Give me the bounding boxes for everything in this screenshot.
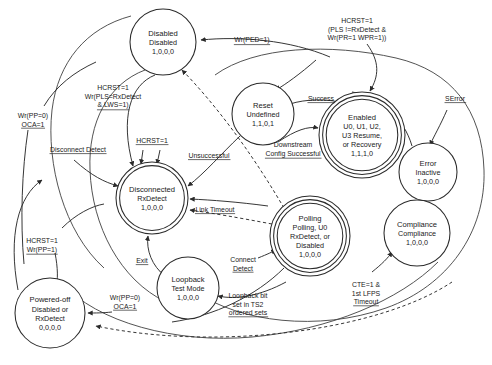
state-reset-line-1: Undefined: [247, 110, 280, 119]
edge-hcrst-pr-wpr-down: [367, 44, 377, 91]
edge-label-wr-ped: Wr(PED=1): [234, 36, 270, 45]
state-compliance-line-1: Compliance: [398, 229, 436, 238]
state-polling-line-4: 1,0,0,0: [299, 250, 321, 259]
state-compliance-line-0: Compliance: [397, 220, 437, 229]
edge-label-wr-pp0-oca1-b: Wr(PP=0)OCA=1: [110, 294, 140, 310]
edge-label-cte-lfps-line-2: Timeout: [354, 298, 379, 305]
edge-label-hcrst-pr-wpr-line-0: HCRST=1: [341, 17, 373, 24]
state-polling-line-2: RxDetect, or: [290, 232, 331, 241]
state-node-loopback[interactable]: LoopbackTest Mode1,0,0,0: [157, 257, 219, 319]
edge-label-connect-det: ConnectDetect: [230, 256, 256, 272]
state-node-enabled[interactable]: EnabledU0, U1, U2,U3 Resume,or Recovery1…: [319, 92, 405, 178]
edge-label-loopback-bit-line-2: ordered sets: [229, 309, 268, 316]
edge-label-success-line-0: Success: [308, 95, 335, 102]
state-poweredoff-line-1: Disabled or: [32, 305, 69, 314]
outer-left-arc: [51, 16, 131, 268]
state-reset-line-2: 1,1,0,1: [252, 119, 274, 128]
edge-serror: [430, 110, 447, 145]
state-enabled-line-4: 1,1,1,0: [351, 149, 373, 158]
edge-link-timeout: [190, 199, 268, 206]
edge-label-cte-lfps: CTE=1 &1st LFPSTimeout: [352, 281, 381, 306]
edge-label-disc-detect-line-0: Disconnect Detect: [50, 146, 106, 153]
state-polling-line-1: Polling, U0: [293, 223, 328, 232]
state-node-poweredoff[interactable]: Powered-offDisabled orRxDetect0,0,0,0: [15, 278, 85, 348]
edge-label-hcrst-wrpp1-line-1: Wr(PP=1): [27, 246, 57, 254]
edge-label-wr-pp0-oca1-a: Wr(PP=0)OCA=1: [18, 112, 48, 128]
state-disabled-line-1: Disabled: [149, 38, 177, 47]
state-enabled-line-0: Enabled: [348, 113, 376, 122]
edge-label-hcrst-pr-wpr-line-1: (PLS !=RxDetect &: [328, 26, 386, 34]
state-loopback-line-0: Loopback: [172, 275, 205, 284]
edge-label-connect-det-line-0: Connect: [230, 256, 256, 263]
state-loopback-line-1: Test Mode: [171, 284, 204, 293]
edge-enabled-top-arc: [276, 60, 316, 90]
state-loopback-line-2: 1,0,0,0: [177, 293, 199, 302]
edge-label-hcrst-mid: HCRST=1: [136, 137, 169, 145]
state-node-compliance[interactable]: ComplianceCompliance1,0,0,0: [384, 200, 450, 266]
edge-label-disc-detect: Disconnect Detect: [50, 146, 107, 154]
edge-label-unsuccessful-line-0: Unsuccessful: [189, 152, 230, 159]
diagram-canvas: DisabledDisabled1,0,0,0ResetUndefined1,1…: [0, 0, 492, 365]
edge-label-wr-pp0-oca1-b-line-1: OCA=1: [114, 303, 137, 310]
state-error-line-1: Inactive: [416, 168, 441, 177]
edge-label-cte-lfps-line-1: 1st LFPS: [352, 290, 381, 297]
state-enabled-line-3: or Recovery: [343, 140, 382, 149]
state-disconnected-line-2: 1,0,0,0: [141, 203, 163, 212]
edge-label-connect-det-line-1: Detect: [233, 265, 253, 272]
edge-label-hcrst-pls-line-2: & LWS=1): [97, 101, 128, 109]
edge-label-down-config: DownstreamConfig Successful: [265, 141, 322, 158]
state-disconnected-line-1: RxDetect: [137, 194, 167, 203]
state-polling-line-0: Polling: [299, 214, 322, 223]
edge-label-wr-pp0-oca1-b-line-0: Wr(PP=0): [110, 294, 140, 302]
edge-label-hcrst-pr-wpr-line-2: Wr(PR=1 WPR=1)): [328, 34, 387, 42]
edge-label-loopback-bit-line-0: Loopback bit: [228, 292, 267, 300]
edge-label-hcrst-wrpp1: HCRST=1Wr(PP=1): [26, 237, 58, 254]
state-polling-line-3: Disabled: [296, 241, 324, 250]
state-poweredoff-line-2: RxDetect: [35, 314, 65, 323]
state-node-disabled[interactable]: DisabledDisabled1,0,0,0: [130, 9, 196, 75]
edge-label-cte-lfps-line-0: CTE=1 &: [352, 281, 381, 288]
edge-label-wr-ped-line-0: Wr(PED=1): [234, 36, 269, 44]
edge-labels: Wr(PED=1)HCRST=1Wr(PLS=RxDetect& LWS=1)H…: [18, 17, 466, 317]
edge-hcrst-mid-a: [141, 150, 143, 164]
edge-label-serror-line-0: SError: [445, 95, 466, 102]
edge-label-exit-line-0: Exit: [136, 257, 148, 264]
state-enabled-line-2: U3 Resume,: [342, 131, 382, 140]
edge-label-hcrst-pls: HCRST=1Wr(PLS=RxDetect& LWS=1): [85, 84, 141, 110]
edge-label-serror: SError: [445, 95, 467, 103]
edge-label-unsuccessful: Unsuccessful: [188, 152, 230, 160]
state-disabled-line-0: Disabled: [148, 29, 178, 38]
state-disconnected-line-0: Disconnected: [129, 185, 175, 194]
edge-left-arc-to-disconnected: [14, 180, 42, 290]
edge-label-exit: Exit: [136, 257, 149, 265]
state-error-line-2: 1,0,0,0: [417, 177, 439, 186]
state-error-line-0: Error: [420, 159, 437, 168]
edge-label-wr-pp0-oca1-a-line-0: Wr(PP=0): [18, 112, 48, 120]
state-node-polling[interactable]: PollingPolling, U0RxDetect, orDisabled1,…: [270, 196, 350, 276]
edge-label-hcrst-pls-line-1: Wr(PLS=RxDetect: [85, 93, 141, 101]
state-poweredoff-line-0: Powered-off: [30, 295, 72, 304]
edge-label-down-config-line-1: Config Successful: [265, 150, 321, 158]
edge-label-link-timeout: Link Timeout: [195, 206, 235, 214]
edge-return-to-poweredoff-dashed: [96, 282, 452, 337]
edge-label-link-timeout-line-0: Link Timeout: [195, 206, 234, 213]
edge-label-hcrst-pls-line-0: HCRST=1: [97, 84, 129, 91]
edge-label-hcrst-pr-wpr: HCRST=1(PLS !=RxDetect &Wr(PR=1 WPR=1)): [328, 17, 387, 42]
state-reset-line-0: Reset: [253, 101, 274, 110]
edge-label-success: Success: [307, 95, 335, 103]
state-enabled-line-1: U0, U1, U2,: [343, 122, 381, 131]
state-compliance-line-2: 1,0,0,0: [406, 238, 428, 247]
state-node-reset[interactable]: ResetUndefined1,1,0,1: [232, 83, 294, 145]
state-node-error[interactable]: ErrorInactive1,0,0,0: [399, 143, 457, 201]
edge-label-hcrst-wrpp1-line-0: HCRST=1: [26, 237, 58, 244]
state-poweredoff-line-3: 0,0,0,0: [39, 323, 61, 332]
edge-label-loopback-bit-line-1: set in TS2: [233, 301, 264, 308]
edge-label-loopback-bit: Loopback bitset in TS2ordered sets: [228, 292, 268, 317]
state-machine-diagram: DisabledDisabled1,0,0,0ResetUndefined1,1…: [0, 0, 492, 365]
state-node-disconnected[interactable]: DisconnectedRxDetect1,0,0,0: [116, 162, 188, 234]
edge-unsuccessful: [188, 136, 240, 186]
edge-disconnect-detect: [74, 160, 118, 186]
state-disabled-line-2: 1,0,0,0: [152, 47, 174, 56]
edge-label-wr-pp0-oca1-a-line-1: OCA=1: [22, 121, 45, 128]
edge-hcrst-pls-to-disconnected: [127, 75, 155, 166]
